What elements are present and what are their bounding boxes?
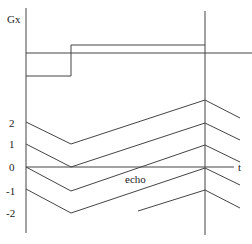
x-axis-label: t <box>238 161 241 173</box>
phase-line-2 <box>26 100 240 144</box>
gradient-waveform <box>26 45 205 76</box>
echo-label: echo <box>125 173 146 185</box>
tick-label: 1 <box>9 138 15 150</box>
tick-label: -1 <box>6 185 15 197</box>
tick-label: 0 <box>9 161 15 173</box>
phase-line-minus2 <box>138 190 240 211</box>
phase-line-1 <box>26 123 240 167</box>
tick-label: 2 <box>9 117 15 129</box>
gradient-echo-phase-diagram: Gx t echo 2 1 0 -1 -2 <box>0 0 252 244</box>
tick-label: -2 <box>6 207 15 219</box>
y-axis-label: Gx <box>7 13 21 25</box>
